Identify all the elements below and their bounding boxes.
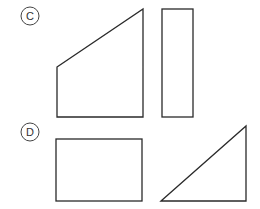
answer-options-diagram: C D (0, 0, 260, 209)
option-d-label-text: D (26, 126, 34, 138)
option-c-label: C (21, 7, 39, 25)
option-d-label: D (21, 123, 39, 141)
option-c-trapezoid (57, 9, 143, 117)
option-c-label-text: C (26, 10, 34, 22)
option-c-tall-rectangle (162, 9, 193, 117)
option-c: C (21, 7, 193, 117)
option-d: D (21, 123, 246, 201)
option-d-wide-rectangle (56, 139, 142, 201)
option-d-right-triangle (161, 126, 246, 201)
